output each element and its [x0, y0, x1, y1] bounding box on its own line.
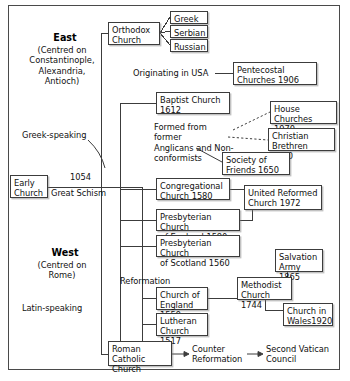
box-salvation-army[interactable]: Salvation Army 1865: [275, 249, 323, 272]
label-reformation: Reformation: [120, 276, 170, 286]
box-serbian[interactable]: Serbian: [170, 25, 208, 38]
box-presbyterian-england[interactable]: Presbyterian Church of England 1580: [156, 209, 240, 231]
box-lutheran-church[interactable]: Lutheran Church 1517: [156, 313, 208, 336]
diagram-page: East (Centred on Constantinople, Alexand…: [0, 0, 350, 381]
region-title-east: East: [22, 32, 108, 43]
region-subtitle-east: (Centred on Constantinople, Alexandria, …: [14, 45, 110, 86]
box-congregational-church[interactable]: Congregational Church 1580: [156, 178, 230, 200]
box-christian-brethren[interactable]: Christian Brethren 1830: [268, 128, 335, 151]
box-greek[interactable]: Greek: [170, 11, 208, 24]
region-language-east: Greek-speaking: [22, 130, 86, 140]
box-society-of-friends[interactable]: Society of Friends 1650: [222, 152, 290, 175]
box-early-church[interactable]: Early Church: [10, 175, 48, 198]
box-church-in-wales[interactable]: Church in Wales1920: [283, 303, 333, 326]
box-russian[interactable]: Russian: [170, 39, 208, 52]
label-great-schism: Great Schism: [51, 188, 106, 198]
box-orthodox-church[interactable]: Orthodox Church: [108, 22, 160, 45]
box-united-reformed-church[interactable]: United Reformed Church 1972: [244, 185, 322, 210]
box-baptist-church[interactable]: Baptist Church 1612: [156, 92, 230, 114]
region-language-west: Latin-speaking: [22, 303, 82, 313]
box-pentecostal-churches[interactable]: Pentecostal Churches 1906: [233, 62, 317, 85]
label-counter-reformation: Counter Reformation: [192, 344, 252, 365]
box-presbyterian-scotland[interactable]: Presbyterian Church of Scotland 1560: [156, 235, 240, 257]
label-great-schism-year: 1054: [70, 172, 91, 182]
box-roman-catholic-church[interactable]: Roman Catholic Church: [108, 341, 172, 366]
region-subtitle-west: (Centred on Rome): [14, 260, 110, 281]
box-methodist-church[interactable]: Methodist Church 1744: [237, 277, 292, 300]
region-title-west: West: [22, 247, 108, 258]
label-second-vatican-council: Second Vatican Council: [266, 344, 336, 365]
label-originating-in-usa: Originating in USA: [133, 68, 208, 78]
box-church-of-england[interactable]: Church of England 1559: [156, 287, 208, 310]
box-house-churches[interactable]: House Churches 1970: [270, 101, 337, 124]
